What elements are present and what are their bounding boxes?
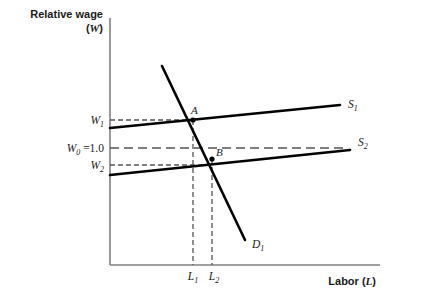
chart-background — [0, 0, 430, 304]
equilibrium-label-a: A — [190, 104, 198, 116]
y-axis-title-line2: (W) — [86, 22, 103, 34]
equilibrium-point-b — [209, 156, 214, 161]
equilibrium-point-a — [190, 117, 195, 122]
y-axis-title-line1: Relative wage — [30, 8, 103, 20]
chart-canvas: S1 S2 D1 A B W1 W0 =1.0 W2 L1 L2 Relativ… — [0, 0, 430, 304]
supply-demand-chart: S1 S2 D1 A B W1 W0 =1.0 W2 L1 L2 Relativ… — [0, 0, 430, 304]
x-axis-title: Labor (L) — [328, 275, 376, 287]
equilibrium-label-b: B — [216, 146, 223, 158]
